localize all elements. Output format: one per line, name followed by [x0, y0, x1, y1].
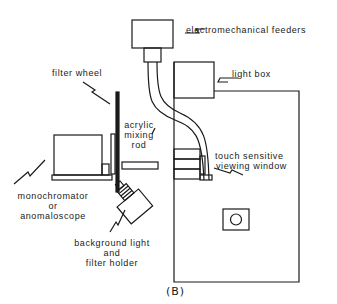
label-mixing: mixing — [118, 130, 160, 140]
label-background-light: background light — [66, 238, 158, 248]
feeders-box — [132, 20, 173, 48]
label-and: and — [66, 248, 158, 258]
arrow-filter-wheel — [83, 82, 110, 104]
label-monochromator: monochromator — [10, 191, 96, 201]
background-light — [106, 175, 153, 224]
figure-caption: (B) — [166, 285, 185, 298]
window-upper — [174, 149, 200, 159]
label-filter-wheel: filter wheel — [52, 68, 102, 78]
label-acrylic: acrylic — [118, 120, 160, 130]
response-button-frame — [223, 209, 249, 230]
label-anomaloscope: anomaloscope — [10, 211, 96, 221]
label-or: or — [10, 201, 96, 211]
label-background-light-filter-holder: background light and filter holder — [66, 238, 158, 268]
cable-inner — [157, 62, 209, 180]
acrylic-rod — [122, 162, 158, 169]
label-rod: rod — [118, 140, 160, 150]
arrow-monochromator — [14, 160, 45, 184]
label-touch-sensitive-viewing-window: touch sensitive viewing window — [215, 151, 287, 171]
monochromator-box — [54, 135, 102, 175]
monochromator-base — [52, 175, 112, 180]
label-monochromator-or-anomaloscope: monochromator or anomaloscope — [10, 191, 96, 221]
label-acrylic-mixing-rod: acrylic mixing rod — [118, 120, 160, 150]
window-tab — [200, 175, 212, 180]
label-electromechanical-feeders: electromechanical feeders — [186, 25, 306, 35]
label-viewing-window: viewing window — [215, 161, 287, 171]
monochromator-port — [102, 164, 109, 175]
response-button — [231, 214, 242, 225]
filter-wheel-mount — [111, 134, 115, 174]
label-filter-holder: filter holder — [66, 258, 158, 268]
feeders-neck — [144, 48, 161, 62]
label-light-box: light box — [232, 69, 271, 79]
apparatus-diagram: electromechanical feeders filter wheel l… — [0, 0, 337, 304]
window-lower — [174, 169, 200, 179]
label-touch-sensitive: touch sensitive — [215, 151, 287, 161]
light-box — [174, 62, 214, 98]
window-middle — [174, 159, 200, 169]
